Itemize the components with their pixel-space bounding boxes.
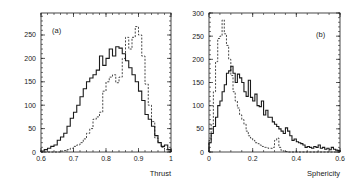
x-tick-label: 0.4 xyxy=(291,155,301,162)
y-tick-label: 150 xyxy=(24,78,36,85)
x-tick-label: 0.2 xyxy=(248,155,258,162)
panel-label: (a) xyxy=(52,26,62,35)
panel-label: (b) xyxy=(316,30,326,39)
solid-histogram-line xyxy=(41,47,171,152)
x-tick-label: 0.6 xyxy=(36,155,46,162)
y-tick-label: 200 xyxy=(24,55,36,62)
y-tick-label: 200 xyxy=(192,56,204,63)
thrust-histogram-panel: 0.60.70.80.91050100150200250(a)Thrust xyxy=(24,13,173,178)
dashed-histogram-line xyxy=(209,20,340,152)
y-tick-label: 0 xyxy=(200,149,204,156)
y-tick-label: 150 xyxy=(192,79,204,86)
y-tick-label: 50 xyxy=(196,125,204,132)
x-axis-title: Sphericity xyxy=(307,169,340,178)
y-tick-label: 50 xyxy=(28,125,36,132)
y-tick-label: 250 xyxy=(192,33,204,40)
x-tick-label: 0.9 xyxy=(134,155,144,162)
dashed-histogram-line xyxy=(41,27,171,152)
y-tick-label: 100 xyxy=(24,102,36,109)
x-tick-label: 0.8 xyxy=(101,155,111,162)
y-tick-label: 0 xyxy=(32,149,36,156)
x-tick-label: 1 xyxy=(169,155,173,162)
y-tick-label: 300 xyxy=(192,10,204,17)
sphericity-histogram-panel: 00.20.40.6050100150200250300(b)Sphericit… xyxy=(192,10,345,179)
y-tick-label: 100 xyxy=(192,102,204,109)
x-tick-label: 0.7 xyxy=(69,155,79,162)
y-tick-label: 250 xyxy=(24,31,36,38)
x-tick-label: 0 xyxy=(207,155,211,162)
solid-histogram-line xyxy=(209,66,340,152)
x-axis-title: Thrust xyxy=(150,169,172,178)
x-tick-label: 0.6 xyxy=(335,155,345,162)
figure: 0.60.70.80.91050100150200250(a)Thrust 00… xyxy=(0,0,359,185)
